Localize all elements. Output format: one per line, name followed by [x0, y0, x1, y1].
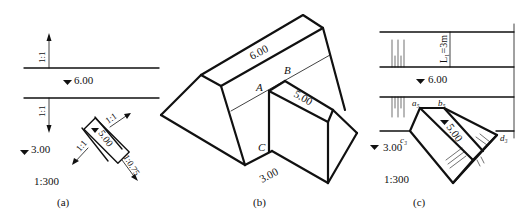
- point-d3-label: d₃: [500, 133, 508, 143]
- diagram-canvas: 1:1 1:1 6.00 3.00 5.00 1:1 1:1 1:0.75 1:…: [0, 0, 531, 223]
- elev-low-label: 3.00: [31, 143, 51, 155]
- point-b-label: B: [284, 64, 291, 76]
- elevation-triangle-icon: [20, 150, 29, 155]
- panel-a: 1:1 1:1 6.00 3.00 5.00 1:1 1:1 1:0.75 1:…: [20, 33, 159, 209]
- elevation-triangle-icon: [416, 79, 425, 84]
- caption-a: (a): [57, 196, 70, 209]
- slope-hatch: [392, 40, 404, 117]
- slope-label-down: 1:1: [37, 105, 47, 117]
- point-a5-label: a₅: [412, 98, 420, 108]
- dim-l1-label: L₁=3m: [438, 35, 449, 63]
- elev-base-label: 3.00: [257, 165, 280, 185]
- elev-top-label: 6.00: [74, 74, 94, 86]
- point-b5-label: b₅: [438, 98, 446, 108]
- point-a-label: A: [255, 81, 263, 93]
- ramp-slope-end: 1:0.75: [121, 153, 142, 178]
- elevation-triangle-icon: [63, 80, 72, 85]
- point-c-label: C: [258, 141, 266, 153]
- caption-c: (c): [413, 196, 426, 209]
- point-c3-label: c₃: [400, 135, 407, 145]
- elevation-triangle-icon: [370, 145, 379, 150]
- caption-b: (b): [253, 196, 266, 209]
- ramp-slope-right: 1:1: [103, 111, 118, 126]
- panel-c: L₁=3m 6.00 3.00: [370, 24, 514, 209]
- panel-b: 6.00 A B C 5.00 3.00 (b): [161, 15, 357, 209]
- elev-top-label: 6.00: [428, 73, 448, 85]
- scale-label: 1:300: [34, 175, 60, 187]
- elev-ramp-label: 5.00: [444, 121, 465, 144]
- slope-label-up: 1:1: [37, 51, 47, 63]
- scale-label: 1:300: [384, 173, 410, 185]
- ramp-slope-left: 1:1: [74, 138, 89, 153]
